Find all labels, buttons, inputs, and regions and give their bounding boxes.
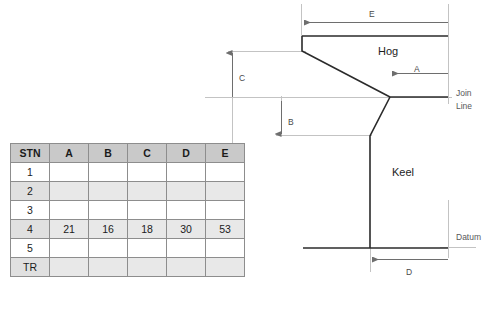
cell-a[interactable] — [50, 258, 89, 277]
offsets-table: STN A B C D E 123421161830535TR — [10, 143, 245, 277]
cell-c[interactable] — [128, 163, 167, 182]
offsets-table-head: STN A B C D E — [11, 144, 245, 163]
reference-lines — [205, 4, 476, 272]
cell-stn[interactable]: 3 — [11, 201, 50, 220]
column-header-c: C — [128, 144, 167, 163]
cell-c[interactable] — [128, 201, 167, 220]
column-header-d: D — [167, 144, 206, 163]
cell-a[interactable] — [50, 182, 89, 201]
cell-c[interactable] — [128, 258, 167, 277]
offsets-table-container: STN A B C D E 123421161830535TR — [10, 143, 238, 277]
cell-e[interactable] — [206, 182, 245, 201]
table-row[interactable]: 3 — [11, 201, 245, 220]
column-header-a: A — [50, 144, 89, 163]
cell-stn[interactable]: 1 — [11, 163, 50, 182]
cell-b[interactable] — [89, 163, 128, 182]
table-row[interactable]: 1 — [11, 163, 245, 182]
hull-outline — [302, 36, 448, 248]
table-row[interactable]: TR — [11, 258, 245, 277]
cell-stn[interactable]: TR — [11, 258, 50, 277]
table-row[interactable]: 2 — [11, 182, 245, 201]
cell-b[interactable] — [89, 201, 128, 220]
table-row[interactable]: 5 — [11, 239, 245, 258]
cell-stn[interactable]: 2 — [11, 182, 50, 201]
table-header-row: STN A B C D E — [11, 144, 245, 163]
cell-b[interactable] — [89, 182, 128, 201]
cell-b[interactable] — [89, 239, 128, 258]
cell-c[interactable]: 18 — [128, 220, 167, 239]
cell-e[interactable] — [206, 201, 245, 220]
cell-b[interactable] — [89, 258, 128, 277]
diagram-canvas: Hog Keel E A C B D Join Line Datum STN A… — [0, 0, 488, 314]
cell-stn[interactable]: 5 — [11, 239, 50, 258]
cell-d[interactable]: 30 — [167, 220, 206, 239]
dimension-lines — [233, 23, 449, 260]
cell-d[interactable] — [167, 182, 206, 201]
column-header-b: B — [89, 144, 128, 163]
cell-e[interactable] — [206, 258, 245, 277]
cell-c[interactable] — [128, 239, 167, 258]
hog-outline — [302, 36, 448, 97]
cell-e[interactable]: 53 — [206, 220, 245, 239]
cell-d[interactable] — [167, 239, 206, 258]
cell-b[interactable]: 16 — [89, 220, 128, 239]
table-row[interactable]: 42116183053 — [11, 220, 245, 239]
cell-a[interactable] — [50, 163, 89, 182]
keel-outline — [370, 97, 390, 248]
cell-a[interactable]: 21 — [50, 220, 89, 239]
cell-a[interactable] — [50, 239, 89, 258]
cell-stn[interactable]: 4 — [11, 220, 50, 239]
cell-d[interactable] — [167, 258, 206, 277]
offsets-table-body: 123421161830535TR — [11, 163, 245, 277]
cell-e[interactable] — [206, 163, 245, 182]
cell-c[interactable] — [128, 182, 167, 201]
cell-d[interactable] — [167, 163, 206, 182]
cell-a[interactable] — [50, 201, 89, 220]
column-header-e: E — [206, 144, 245, 163]
cell-d[interactable] — [167, 201, 206, 220]
column-header-stn: STN — [11, 144, 50, 163]
cell-e[interactable] — [206, 239, 245, 258]
